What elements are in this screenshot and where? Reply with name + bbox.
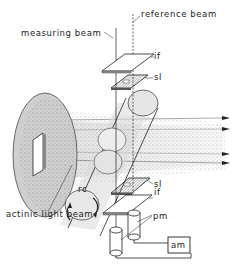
label-actinic-light-beam: actinic light beam [6, 210, 93, 219]
label-slit-top: sl [154, 73, 162, 82]
slit-top [111, 75, 148, 90]
label-photomultipliers: pm [153, 212, 168, 221]
label-reaction-cell: rc [78, 185, 87, 194]
apparatus-drawing [0, 0, 233, 266]
interference-filter-top [102, 54, 154, 73]
interference-filter-bottom [103, 195, 152, 215]
photomultiplier-left [110, 227, 122, 256]
diagram-canvas: reference beam measuring beam if sl sl r… [0, 0, 233, 266]
label-reference-beam: reference beam [141, 10, 217, 19]
label-interference-filter-bottom: if [154, 188, 161, 197]
photomultiplier-right [128, 210, 140, 240]
label-measuring-beam: measuring beam [21, 29, 101, 38]
label-amplifier: am [171, 241, 186, 250]
label-interference-filter-top: if [154, 52, 161, 61]
